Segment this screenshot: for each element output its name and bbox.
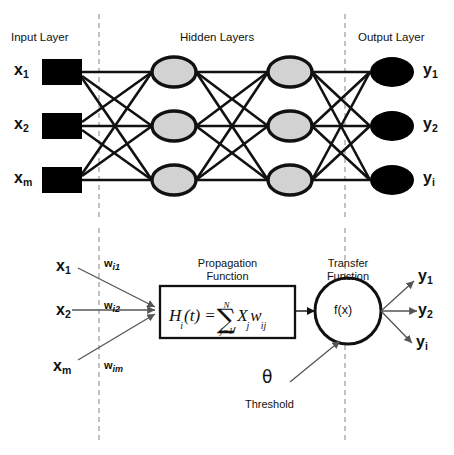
weight-label-3-sub: im <box>113 364 124 374</box>
output-label-3-sub: i <box>432 176 435 188</box>
neuron-output-label-1: y1 <box>418 268 433 285</box>
input-label-2: x2 <box>14 116 29 133</box>
hidden-layer-title: Hidden Layers <box>180 31 254 43</box>
hidden-node-1-1 <box>152 57 196 87</box>
neuron-input-label-1: x1 <box>56 258 71 275</box>
weight-label-2: wi2 <box>104 300 120 312</box>
transfer-function-title-line1: Transfer <box>328 257 369 269</box>
propagation-function-title-line1: Propagation <box>198 257 257 269</box>
input-label-2-base: x <box>14 115 23 132</box>
neuron-input-label-1-base: x <box>56 257 65 274</box>
input-node-3 <box>42 167 82 193</box>
output-label-3-base: y <box>423 169 432 186</box>
neuron-output-label-1-sub: 1 <box>427 274 433 286</box>
hidden-node-2-1 <box>268 57 312 87</box>
input-label-1-base: x <box>14 61 23 78</box>
output-layer-nodes <box>370 57 414 195</box>
input-label-3-sub: m <box>23 176 32 188</box>
input-node-1 <box>42 59 82 85</box>
weight-label-3-base: w <box>104 359 113 371</box>
output-label-1-sub: 1 <box>432 68 438 80</box>
weight-label-1-base: w <box>104 257 113 269</box>
hidden-node-2-2 <box>268 111 312 141</box>
neuron-input-label-3-base: x <box>53 357 62 374</box>
formula-term1: X <box>237 306 247 325</box>
output-label-2-base: y <box>423 115 432 132</box>
output-label-3: yi <box>423 170 435 187</box>
weight-label-2-sub: i2 <box>113 304 121 314</box>
input-label-1: x1 <box>14 62 29 79</box>
input-label-1-sub: 1 <box>23 68 29 80</box>
neuron-output-label-3-base: y <box>416 333 425 350</box>
propagation-function-title: Propagation Function <box>160 257 295 282</box>
input-label-3-base: x <box>14 169 23 186</box>
neural-network-figure: Input Layer Hidden Layers Output Layer x… <box>0 0 454 455</box>
input-layer-nodes <box>42 59 82 193</box>
propagation-function-title-line2: Function <box>206 270 248 282</box>
figure-canvas <box>0 0 454 455</box>
neuron-input-label-2-sub: 2 <box>65 308 71 320</box>
output-node-1 <box>370 57 414 87</box>
weight-label-3: wim <box>104 360 123 372</box>
network-connections <box>82 72 370 180</box>
formula-term2: w <box>250 306 261 325</box>
neuron-input-label-2: x2 <box>56 302 71 319</box>
hidden-layer-1-nodes <box>152 57 196 195</box>
output-layer-title: Output Layer <box>358 31 424 43</box>
neuron-input-label-3: xm <box>53 358 71 375</box>
output-label-2-sub: 2 <box>432 122 438 134</box>
input-label-2-sub: 2 <box>23 122 29 134</box>
hidden-node-1-3 <box>152 165 196 195</box>
input-label-3: xm <box>14 170 32 187</box>
neuron-output-arrows <box>381 281 417 343</box>
neuron-input-label-1-sub: 1 <box>65 264 71 276</box>
transfer-function-title: Transfer Function <box>303 257 393 282</box>
input-layer-title: Input Layer <box>11 31 69 43</box>
hidden-node-1-2 <box>152 111 196 141</box>
transfer-function-title-line2: Function <box>327 270 369 282</box>
hidden-layer-2-nodes <box>268 57 312 195</box>
neuron-output-label-2: y2 <box>418 302 433 319</box>
neuron-output-label-1-base: y <box>418 267 427 284</box>
hidden-node-2-3 <box>268 165 312 195</box>
output-label-2: y2 <box>423 116 438 133</box>
weight-label-1: wi1 <box>104 258 120 270</box>
neuron-input-label-3-sub: m <box>62 364 71 376</box>
neuron-output-label-3: yi <box>416 334 428 351</box>
formula-term2-sub: ij <box>261 320 267 331</box>
weight-label-2-base: w <box>104 299 113 311</box>
neuron-input-arrows <box>72 268 155 360</box>
transfer-function-body: f(x) <box>334 304 352 317</box>
propagation-formula: Hi(t) =N∑j=1Xjwij <box>169 300 267 335</box>
formula-term1-sub: j <box>247 320 250 331</box>
output-label-1-base: y <box>423 61 432 78</box>
weight-label-1-sub: i1 <box>113 262 121 272</box>
output-node-3 <box>370 165 414 195</box>
output-node-2 <box>370 111 414 141</box>
input-node-2 <box>42 113 82 139</box>
threshold-label: Threshold <box>245 399 294 411</box>
formula-arg: (t) = <box>184 306 216 325</box>
formula-lhs-sub: i <box>180 320 183 331</box>
threshold-arrow <box>290 341 340 382</box>
neuron-output-label-2-sub: 2 <box>427 308 433 320</box>
neuron-output-label-2-base: y <box>418 301 427 318</box>
neuron-input-label-2-base: x <box>56 301 65 318</box>
theta-symbol: θ <box>262 369 272 387</box>
neuron-output-label-3-sub: i <box>425 340 428 352</box>
output-label-1: y1 <box>423 62 438 79</box>
summation-symbol: N∑j=1 <box>217 301 236 336</box>
